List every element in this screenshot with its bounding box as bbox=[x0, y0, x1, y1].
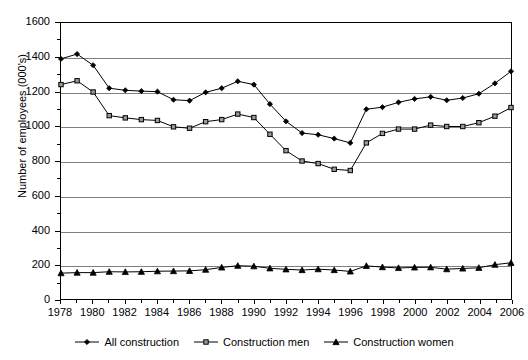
data-point-marker bbox=[396, 100, 401, 105]
x-axis-tick bbox=[270, 300, 271, 303]
x-axis-tick bbox=[302, 300, 303, 303]
x-axis-tick bbox=[205, 300, 206, 303]
x-axis-tick bbox=[92, 300, 93, 304]
data-point-marker bbox=[493, 114, 497, 118]
data-point-marker bbox=[236, 112, 240, 116]
data-point-marker bbox=[252, 115, 256, 119]
data-point-marker bbox=[187, 126, 191, 130]
x-axis-tick bbox=[512, 300, 513, 304]
data-point-marker bbox=[91, 90, 95, 94]
data-point-marker bbox=[445, 124, 449, 128]
square-marker-icon bbox=[193, 336, 219, 348]
legend-item-all-construction[interactable]: All construction bbox=[74, 336, 179, 348]
data-point-marker bbox=[460, 95, 465, 100]
legend-item-construction-women[interactable]: Construction women bbox=[323, 336, 453, 348]
data-point-marker bbox=[316, 132, 321, 137]
data-point-marker bbox=[364, 141, 368, 145]
data-point-marker bbox=[123, 116, 127, 120]
y-axis-tick-label: 1400 bbox=[4, 51, 50, 62]
y-axis-tick-label: 600 bbox=[4, 190, 50, 201]
y-axis-tick-label: 0 bbox=[4, 294, 50, 305]
diamond-marker-icon bbox=[74, 336, 100, 348]
x-axis-tick bbox=[367, 300, 368, 303]
x-axis-tick bbox=[238, 300, 239, 303]
data-point-marker bbox=[220, 117, 224, 121]
data-point-marker bbox=[477, 121, 481, 125]
data-point-marker bbox=[412, 127, 416, 131]
x-axis-tick bbox=[141, 300, 142, 303]
y-axis-tick-label: 800 bbox=[4, 155, 50, 166]
legend-item-construction-men[interactable]: Construction men bbox=[193, 336, 309, 348]
data-point-marker bbox=[428, 94, 433, 99]
series-construction-men bbox=[59, 79, 513, 173]
x-axis-tick bbox=[431, 300, 432, 303]
data-point-marker bbox=[348, 140, 353, 145]
data-point-marker bbox=[476, 91, 481, 96]
legend-label: All construction bbox=[104, 336, 179, 348]
y-axis-tick-label: 200 bbox=[4, 259, 50, 270]
data-point-marker bbox=[461, 124, 465, 128]
data-point-marker bbox=[219, 86, 224, 91]
series-line bbox=[61, 81, 511, 171]
data-point-marker bbox=[139, 117, 143, 121]
x-axis-tick bbox=[173, 300, 174, 303]
data-point-marker bbox=[396, 127, 400, 131]
y-axis-tick-label: 400 bbox=[4, 225, 50, 236]
data-point-marker bbox=[412, 96, 417, 101]
data-point-marker bbox=[171, 97, 176, 102]
data-point-marker bbox=[332, 167, 336, 171]
x-axis-tick bbox=[464, 300, 465, 303]
x-axis-tick bbox=[351, 300, 352, 304]
data-series-layer bbox=[61, 23, 511, 299]
x-axis-tick bbox=[480, 300, 481, 304]
data-point-marker bbox=[300, 159, 304, 163]
legend-label: Construction men bbox=[223, 336, 309, 348]
data-point-marker bbox=[444, 98, 449, 103]
x-axis-tick bbox=[157, 300, 158, 304]
y-axis-tick-label: 1000 bbox=[4, 120, 50, 131]
x-axis-tick bbox=[221, 300, 222, 304]
data-point-marker bbox=[203, 90, 208, 95]
x-axis-tick bbox=[383, 300, 384, 304]
x-axis-tick bbox=[125, 300, 126, 304]
x-axis-tick bbox=[76, 300, 77, 303]
legend-label: Construction women bbox=[353, 336, 453, 348]
series-construction-women bbox=[58, 260, 514, 276]
x-axis-tick bbox=[496, 300, 497, 303]
y-axis-tick-label: 1600 bbox=[4, 16, 50, 27]
triangle-marker-icon bbox=[323, 336, 349, 348]
data-point-marker bbox=[509, 105, 513, 109]
x-axis-tick bbox=[254, 300, 255, 304]
series-line bbox=[61, 54, 511, 143]
data-point-marker bbox=[139, 89, 144, 94]
x-axis-tick-label: 2006 bbox=[492, 306, 528, 318]
data-point-marker bbox=[284, 148, 288, 152]
data-point-marker bbox=[428, 123, 432, 127]
x-axis-tick bbox=[286, 300, 287, 304]
data-point-marker bbox=[59, 82, 63, 86]
data-point-marker bbox=[58, 56, 63, 61]
chart-legend: All constructionConstruction menConstruc… bbox=[0, 336, 528, 348]
data-point-marker bbox=[123, 88, 128, 93]
data-point-marker bbox=[380, 105, 385, 110]
x-axis-tick bbox=[60, 300, 61, 304]
chart-container: Number of employees (000's) 020040060080… bbox=[0, 0, 528, 360]
data-point-marker bbox=[316, 161, 320, 165]
x-axis-tick bbox=[189, 300, 190, 304]
data-point-marker bbox=[268, 132, 272, 136]
data-point-marker bbox=[155, 118, 159, 122]
data-point-marker bbox=[75, 79, 79, 83]
series-all-construction bbox=[58, 51, 513, 145]
data-point-marker bbox=[332, 136, 337, 141]
data-point-marker bbox=[171, 125, 175, 129]
x-axis-tick bbox=[399, 300, 400, 303]
x-axis-tick bbox=[415, 300, 416, 304]
x-axis-tick bbox=[334, 300, 335, 303]
y-axis-tick-label: 1200 bbox=[4, 86, 50, 97]
x-axis-tick bbox=[318, 300, 319, 304]
data-point-marker bbox=[380, 131, 384, 135]
data-point-marker bbox=[155, 89, 160, 94]
data-point-marker bbox=[348, 168, 352, 172]
data-point-marker bbox=[203, 119, 207, 123]
x-axis-tick bbox=[108, 300, 109, 303]
